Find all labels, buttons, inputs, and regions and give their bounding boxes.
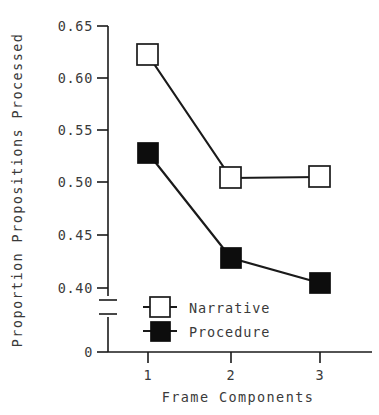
- y-tick-label-0_40: 0.40: [58, 280, 93, 296]
- chart-figure: 0.65 0.60 0.55 0.50 0.45 0.40 0 1 2 3 Fr…: [0, 0, 379, 415]
- y-tick-label-0_45: 0.45: [58, 227, 93, 243]
- line-chart-canvas: 0.65 0.60 0.55 0.50 0.45 0.40 0 1 2 3 Fr…: [0, 0, 379, 415]
- legend-label-procedure: Procedure: [189, 324, 270, 340]
- chart-legend: Narrative Procedure: [143, 297, 270, 341]
- legend-label-narrative: Narrative: [189, 300, 270, 316]
- data-point-narrative-3[interactable]: [309, 166, 330, 187]
- data-point-procedure-1[interactable]: [138, 143, 158, 163]
- x-axis-title: Frame Components: [162, 389, 314, 405]
- y-tick-label-0_65: 0.65: [58, 18, 93, 34]
- data-point-narrative-1[interactable]: [137, 44, 158, 65]
- data-point-procedure-2[interactable]: [221, 248, 241, 268]
- series-line-narrative: [148, 55, 320, 178]
- legend-marker-narrative: [150, 297, 170, 317]
- y-tick-label-0_60: 0.60: [58, 70, 93, 86]
- y-axis-title: Proportion Propositions Processed: [9, 33, 25, 347]
- y-tick-label-0_55: 0.55: [58, 122, 93, 138]
- y-tick-label-0: 0: [84, 344, 93, 360]
- x-tick-label-1: 1: [144, 367, 153, 383]
- x-tick-label-3: 3: [316, 367, 325, 383]
- x-tick-label-2: 2: [227, 367, 236, 383]
- data-point-narrative-2[interactable]: [220, 167, 241, 188]
- y-tick-label-0_50: 0.50: [58, 174, 93, 190]
- legend-marker-procedure: [151, 322, 170, 341]
- data-point-procedure-3[interactable]: [310, 273, 330, 293]
